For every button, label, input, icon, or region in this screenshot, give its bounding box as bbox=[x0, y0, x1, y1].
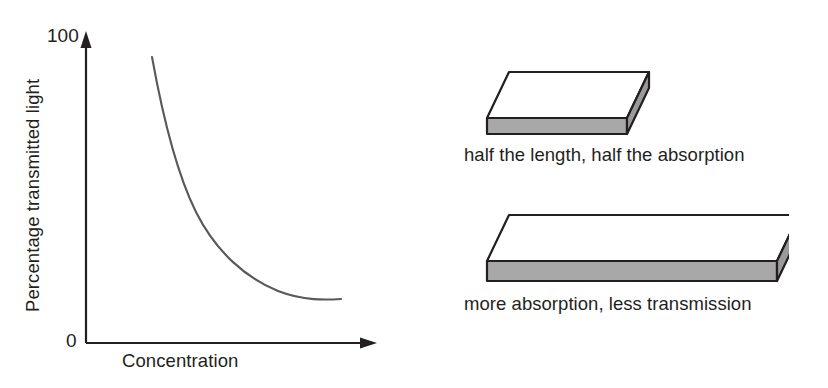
long-block-top-face bbox=[487, 215, 789, 261]
short-block-illustration bbox=[459, 55, 679, 154]
long-block-front-face bbox=[487, 261, 777, 281]
axis-origin-tick-label-0: 0 bbox=[66, 330, 77, 352]
x-axis-title: Concentration bbox=[122, 350, 238, 372]
short-block-caption: half the length, half the absorption bbox=[464, 144, 745, 166]
chart-panel: Percentage transmitted light Concentrati… bbox=[0, 0, 414, 388]
y-axis-arrowhead bbox=[81, 31, 92, 48]
chart-svg bbox=[0, 0, 414, 388]
y-axis-title: Percentage transmitted light bbox=[22, 79, 44, 312]
long-block-caption: more absorption, less transmission bbox=[464, 293, 752, 315]
short-block-svg bbox=[459, 55, 679, 150]
transmission-decay-curve bbox=[152, 57, 341, 300]
long-block-illustration bbox=[459, 193, 789, 297]
blocks-panel: half the length, half the absorption mor… bbox=[414, 0, 828, 388]
short-block-front-face bbox=[487, 118, 627, 134]
y-axis-tick-label-100: 100 bbox=[47, 25, 79, 47]
short-block-top-face bbox=[487, 72, 649, 118]
x-axis-arrowhead bbox=[360, 338, 377, 349]
long-block-svg bbox=[459, 193, 789, 293]
figure-root: Percentage transmitted light Concentrati… bbox=[0, 0, 828, 388]
